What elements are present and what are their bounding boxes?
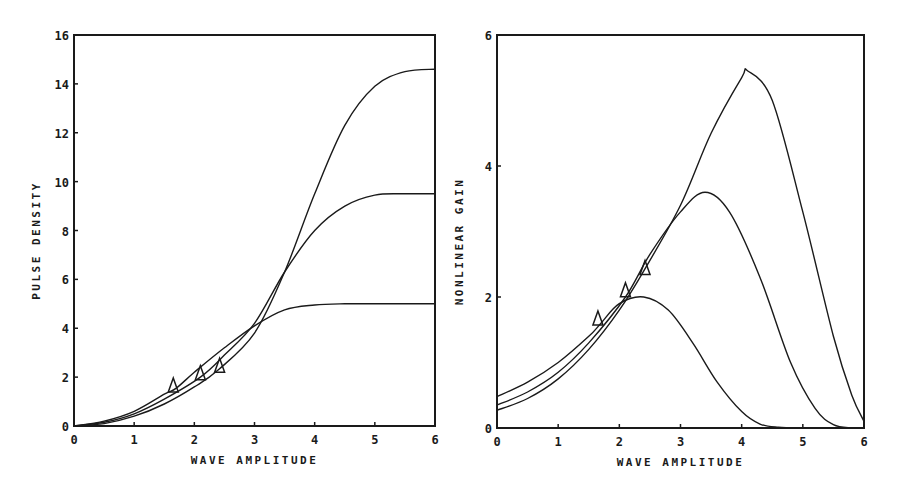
series-gain-high bbox=[497, 69, 864, 422]
plot-frame bbox=[497, 35, 864, 428]
x-tick-label: 5 bbox=[799, 435, 806, 449]
triangle-marker-icon bbox=[620, 283, 630, 297]
x-tick-label: 0 bbox=[70, 433, 77, 447]
x-tick-label: 2 bbox=[191, 433, 198, 447]
x-tick-label: 6 bbox=[431, 433, 438, 447]
x-tick-label: 5 bbox=[371, 433, 378, 447]
y-tick-label: 4 bbox=[62, 322, 69, 336]
x-tick-label: 1 bbox=[131, 433, 138, 447]
y-tick-label: 6 bbox=[485, 29, 492, 43]
panel-pulse-density: 01234560246810121416WAVE AMPLITUDEPULSE … bbox=[30, 29, 439, 467]
figure: 01234560246810121416WAVE AMPLITUDEPULSE … bbox=[0, 0, 898, 492]
y-tick-label: 10 bbox=[55, 176, 69, 190]
x-tick-label: 6 bbox=[860, 435, 867, 449]
panel-nonlinear-gain: 01234560246WAVE AMPLITUDENONLINEAR GAIN bbox=[453, 29, 868, 469]
y-tick-label: 6 bbox=[62, 273, 69, 287]
series-curve-high bbox=[74, 69, 435, 426]
y-tick-label: 8 bbox=[62, 225, 69, 239]
plot-frame bbox=[74, 35, 435, 426]
x-axis-label: WAVE AMPLITUDE bbox=[191, 454, 319, 467]
x-tick-label: 3 bbox=[251, 433, 258, 447]
triangle-marker-icon bbox=[593, 311, 603, 325]
x-tick-label: 3 bbox=[677, 435, 684, 449]
series-curve-mid bbox=[74, 194, 435, 426]
series-gain-low bbox=[497, 297, 864, 428]
y-axis-label: PULSE DENSITY bbox=[30, 181, 43, 300]
y-tick-label: 0 bbox=[62, 420, 69, 434]
y-tick-label: 14 bbox=[55, 78, 69, 92]
x-tick-label: 0 bbox=[493, 435, 500, 449]
y-tick-label: 2 bbox=[485, 291, 492, 305]
x-tick-label: 1 bbox=[555, 435, 562, 449]
y-axis-label: NONLINEAR GAIN bbox=[453, 178, 466, 306]
y-tick-label: 2 bbox=[62, 371, 69, 385]
y-tick-label: 4 bbox=[485, 160, 492, 174]
x-tick-label: 4 bbox=[311, 433, 318, 447]
x-tick-label: 2 bbox=[616, 435, 623, 449]
y-tick-label: 12 bbox=[55, 127, 69, 141]
series-curve-low bbox=[74, 304, 435, 426]
series-gain-mid bbox=[497, 192, 864, 428]
x-axis-label: WAVE AMPLITUDE bbox=[617, 456, 745, 469]
y-tick-label: 16 bbox=[55, 29, 69, 43]
y-tick-label: 0 bbox=[485, 422, 492, 436]
x-tick-label: 4 bbox=[738, 435, 745, 449]
